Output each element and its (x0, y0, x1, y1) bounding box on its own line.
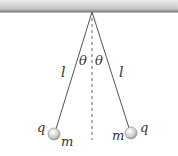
ceiling (0, 0, 178, 12)
left-angle-label: θ (79, 53, 87, 68)
left-string-label: l (61, 64, 65, 80)
right-charge-label: q (140, 120, 148, 135)
right-ball (125, 127, 137, 139)
pendulum-diagram: l l θ θ q m m q (0, 0, 178, 156)
left-ball (48, 128, 60, 140)
right-angle-label: θ (95, 53, 103, 68)
left-charge-label: q (37, 120, 45, 135)
left-mass-label: m (61, 134, 73, 149)
right-string-label: l (119, 64, 123, 80)
diagram-canvas: l l θ θ q m m q (0, 0, 178, 156)
right-mass-label: m (112, 128, 124, 143)
